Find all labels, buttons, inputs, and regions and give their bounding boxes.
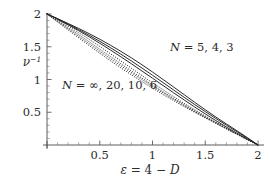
y-tick-label: 2: [34, 7, 41, 21]
y-axis-ticks: [47, 14, 52, 138]
y-tick-label: 1.5: [23, 40, 41, 54]
figure-container: 0.511.52 0.511.52 ε = 4 − D ν−1 N = 5, 4…: [0, 0, 270, 181]
y-tick-label: 1: [34, 73, 41, 87]
y-axis-label: ν−1: [23, 55, 41, 69]
x-axis-label: ε = 4 − D: [120, 163, 179, 177]
y-tick-label: 0.5: [23, 105, 41, 119]
x-tick-label: 1.5: [196, 148, 214, 162]
x-tick-label: 1: [149, 148, 156, 162]
line-chart: 0.511.52 0.511.52 ε = 4 − D ν−1 N = 5, 4…: [0, 0, 270, 181]
x-tick-label: 0.5: [91, 148, 109, 162]
annotation-lower-group: N = ∞, 20, 10, 6: [61, 78, 157, 92]
annotation-upper-group: N = 5, 4, 3: [169, 40, 234, 54]
x-axis-tick-labels: 0.511.52: [91, 148, 262, 162]
x-tick-label: 2: [254, 148, 261, 162]
